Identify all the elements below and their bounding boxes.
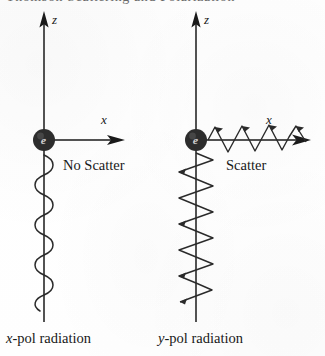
- x-axis-label-left: x: [101, 112, 107, 128]
- z-axis-label-left: z: [52, 12, 57, 28]
- caption-left-rest: -pol radiation: [12, 330, 91, 346]
- state-label-right: Scatter: [226, 157, 266, 174]
- electron-label-left: e: [41, 134, 46, 146]
- incoming-wave-tip-right-b: [179, 221, 186, 227]
- state-label-left: No Scatter: [63, 157, 125, 174]
- incoming-wave-tip-right-a: [179, 169, 186, 175]
- caption-left: x-pol radiation: [6, 330, 91, 347]
- scattered-wave-right: [208, 125, 306, 152]
- incoming-wave-tip-right-d: [180, 299, 187, 305]
- electron-label-right: e: [193, 134, 198, 146]
- figure-canvas: [0, 0, 325, 356]
- scattering-figure: Thomson Scattering and Polarization: [0, 0, 325, 356]
- incoming-wave-tip-right-c: [179, 273, 186, 279]
- x-axis-label-right: x: [266, 112, 272, 128]
- caption-right-rest: -pol radiation: [164, 330, 243, 346]
- z-axis-label-right: z: [204, 12, 209, 28]
- caption-right: y-pol radiation: [158, 330, 243, 347]
